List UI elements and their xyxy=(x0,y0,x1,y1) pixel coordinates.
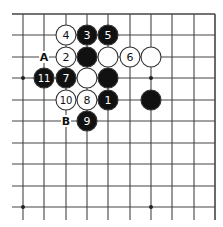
black-stone xyxy=(141,90,161,110)
black-stone-7: 7 xyxy=(56,68,76,88)
move-number: 3 xyxy=(84,29,91,42)
white-stone xyxy=(141,47,161,67)
star-point xyxy=(21,76,25,80)
move-number: 7 xyxy=(63,72,70,85)
move-number: 1 xyxy=(105,94,112,107)
white-stone xyxy=(98,47,118,67)
star-point xyxy=(149,76,153,80)
star-point xyxy=(21,205,25,209)
marker-label-a: A xyxy=(40,51,49,64)
star-point xyxy=(149,205,153,209)
move-number: 6 xyxy=(127,51,134,64)
black-stone xyxy=(98,68,118,88)
move-number: 10 xyxy=(60,95,73,106)
move-number: 4 xyxy=(63,29,70,42)
white-stone-2: 2 xyxy=(56,47,76,67)
white-stone-6: 6 xyxy=(120,47,140,67)
black-stone xyxy=(77,47,97,67)
black-stone-5: 5 xyxy=(98,25,118,45)
board-grid xyxy=(12,14,215,220)
black-stone-11: 11 xyxy=(34,68,54,88)
move-number: 11 xyxy=(38,73,51,84)
black-stone-9: 9 xyxy=(77,111,97,131)
black-stone-3: 3 xyxy=(77,25,97,45)
white-stone-8: 8 xyxy=(77,90,97,110)
marker-label-b: B xyxy=(62,115,70,128)
black-stone-1: 1 xyxy=(98,90,118,110)
move-number: 8 xyxy=(84,94,91,107)
white-stone-10: 10 xyxy=(56,90,76,110)
white-stone-4: 4 xyxy=(56,25,76,45)
move-number: 2 xyxy=(63,51,70,64)
move-number: 9 xyxy=(84,115,91,128)
go-board: AB 4352611710819 xyxy=(0,0,223,227)
white-stone xyxy=(77,68,97,88)
move-number: 5 xyxy=(105,29,112,42)
